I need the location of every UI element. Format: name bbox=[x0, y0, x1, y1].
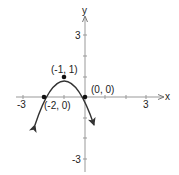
vertex-label: (-1, 1) bbox=[51, 64, 78, 75]
x-axis-label: x bbox=[165, 91, 170, 102]
x-tick-label-neg: -3 bbox=[17, 99, 26, 110]
y-axis-label: y bbox=[82, 5, 87, 16]
vertex-point bbox=[62, 75, 67, 80]
origin-point bbox=[83, 95, 88, 100]
y-tick-label-pos: 3 bbox=[75, 30, 81, 41]
left-root-point bbox=[42, 95, 47, 100]
left-root-label: (-2, 0) bbox=[44, 100, 71, 111]
origin-label: (0, 0) bbox=[91, 84, 114, 95]
coordinate-plane: y x 3 -3 -3 3 (-1, 1) (-2, 0) (0, 0) bbox=[0, 0, 179, 175]
y-tick-label-neg: -3 bbox=[72, 154, 81, 165]
x-tick-label-pos: 3 bbox=[143, 99, 149, 110]
